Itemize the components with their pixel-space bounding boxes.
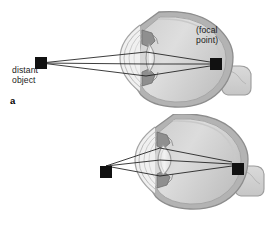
object-and-focal-markers xyxy=(0,0,273,229)
eye-accommodation-figure: distantobject (focalpoint) a xyxy=(0,0,273,229)
focal-point-marker-a xyxy=(210,58,222,70)
close-object-marker xyxy=(100,166,112,178)
distant-object-marker xyxy=(35,57,47,69)
focal-point-marker-b xyxy=(232,163,244,175)
